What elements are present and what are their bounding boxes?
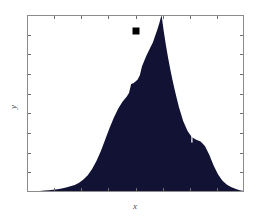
x-axis-label: x: [132, 201, 137, 211]
peak-marker[interactable]: [133, 28, 140, 35]
histogram-plot: x y: [0, 0, 258, 220]
y-axis-label: y: [8, 105, 18, 110]
figure-canvas: x y: [0, 0, 258, 220]
